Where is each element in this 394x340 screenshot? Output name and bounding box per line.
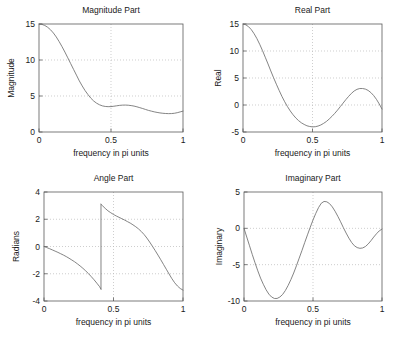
xtick-label-imaginary: 0 — [242, 304, 247, 314]
gridlines-imaginary — [244, 192, 382, 301]
ytick-label-imaginary: 0 — [235, 223, 240, 233]
ytick-label-imaginary: 5 — [235, 187, 240, 197]
y-axis-label-imaginary: Imaginary — [214, 227, 224, 265]
figure-canvas: 05101500.51Magnitude Partfrequency in pi… — [0, 0, 394, 340]
plot-title-imaginary: Imaginary Part — [285, 173, 341, 183]
x-axis-label-imaginary: frequency in pi units — [275, 317, 351, 327]
xtick-label-imaginary: 1 — [380, 304, 385, 314]
ytick-label-imaginary: -5 — [232, 260, 240, 270]
xtick-label-imaginary: 0.5 — [307, 304, 319, 314]
ytick-label-imaginary: -10 — [228, 296, 241, 306]
plot-imaginary: -10-50500.51Imaginary Partfrequency in p… — [0, 0, 394, 340]
